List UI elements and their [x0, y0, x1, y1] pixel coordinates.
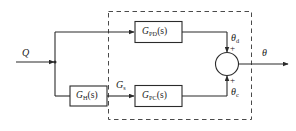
signal-label-g-s-subscript: s [123, 84, 125, 91]
block-diagram-svg [0, 0, 296, 131]
signal-label-theta-c-subscript: c [236, 91, 239, 98]
output-signal-theta: θ [262, 48, 267, 58]
summing-junction-top-sign: + [230, 44, 235, 53]
block-label-g-h-subscript: H [83, 94, 88, 101]
signal-label-theta-d: θd [231, 33, 239, 43]
block-label-g-pd-base: G [142, 26, 149, 36]
input-signal-Q: Q [22, 48, 29, 58]
signal-label-theta-c: θc [231, 87, 239, 97]
block-label-g-pc-base: G [142, 90, 149, 100]
block-label-g-pd: GPD(s) [142, 27, 167, 37]
block-label-g-h: GH(s) [76, 91, 98, 101]
block-label-g-pd-subscript: PD [149, 30, 157, 37]
block-label-g-h-base: G [76, 90, 83, 100]
block-label-g-pd-arg: (s) [157, 26, 167, 36]
block-label-g-pc-arg: (s) [157, 90, 167, 100]
diagram-canvas: Q θ GPD(s) GH(s) GPC(s) Gs θd θc + + [0, 0, 296, 131]
block-label-g-h-arg: (s) [88, 90, 98, 100]
summing-junction-bottom-sign: + [230, 76, 235, 85]
block-label-g-pc: GPC(s) [142, 91, 167, 101]
signal-label-theta-d-subscript: d [236, 37, 239, 44]
block-label-g-pc-subscript: PC [149, 94, 157, 101]
summing-junction [216, 53, 239, 76]
signal-label-g-s: Gs [116, 80, 126, 90]
